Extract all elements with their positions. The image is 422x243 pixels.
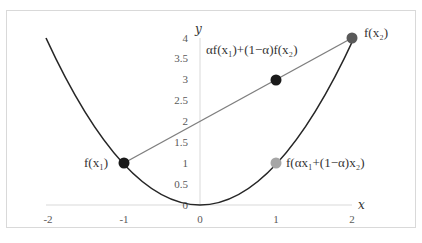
point-f-combination bbox=[271, 158, 282, 169]
y-tick: 1 bbox=[183, 157, 189, 169]
x-tick: -2 bbox=[43, 213, 52, 225]
y-tick: 2 bbox=[183, 115, 189, 127]
point-chord-combination bbox=[271, 75, 282, 86]
x-tick: 1 bbox=[273, 213, 279, 225]
y-tick: 1.5 bbox=[174, 136, 188, 148]
x-axis-label: x bbox=[358, 198, 365, 212]
convex-function-chart: 0 0.5 1 1.5 2 2.5 3 3.5 4 -2 -1 0 1 2 y … bbox=[0, 0, 422, 243]
y-tick: 4 bbox=[183, 32, 189, 44]
x-tick: 2 bbox=[349, 213, 355, 225]
point-f-x2 bbox=[347, 33, 358, 44]
y-axis-label: y bbox=[194, 22, 202, 36]
label-curve-point: f(αx₁+(1−α)x₂) bbox=[286, 155, 365, 170]
label-chord-point: αf(x₁)+(1−α)f(x₂) bbox=[206, 42, 297, 57]
x-tick: -1 bbox=[119, 213, 128, 225]
point-f-x1 bbox=[119, 158, 130, 169]
y-tick: 3.5 bbox=[174, 52, 188, 64]
y-tick: 3 bbox=[183, 73, 189, 85]
y-tick: 0 bbox=[183, 199, 189, 211]
x-tick: 0 bbox=[197, 213, 203, 225]
y-tick: 0.5 bbox=[174, 178, 188, 190]
label-f-x1: f(x₁) bbox=[84, 155, 108, 170]
label-f-x2: f(x₂) bbox=[364, 25, 388, 40]
y-tick: 2.5 bbox=[174, 94, 188, 106]
